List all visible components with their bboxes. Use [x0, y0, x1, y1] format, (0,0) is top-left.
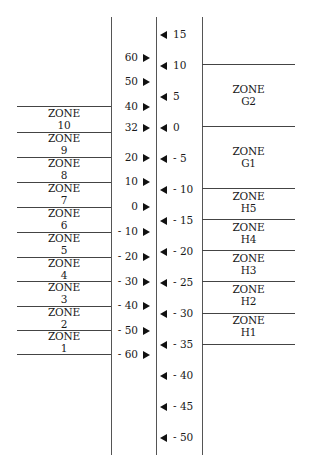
triangle-right-icon: [143, 278, 150, 286]
triangle-left-icon: [160, 124, 167, 132]
triangle-left-icon: [160, 155, 167, 163]
triangle-right-icon: [143, 203, 150, 211]
zone-h4: ZONEH4: [202, 221, 295, 245]
right-tick: - 20: [160, 245, 193, 257]
triangle-left-icon: [160, 248, 167, 256]
triangle-right-icon: [143, 351, 150, 359]
right-tick: - 35: [160, 338, 193, 350]
triangle-right-icon: [143, 124, 150, 132]
triangle-left-icon: [160, 403, 167, 411]
triangle-right-icon: [143, 103, 150, 111]
left-tick: - 10: [104, 225, 150, 237]
right-tick: - 10: [160, 183, 193, 195]
triangle-right-icon: [143, 178, 150, 186]
zone-divider: [202, 250, 295, 251]
zone-4: ZONE4: [17, 257, 111, 281]
triangle-left-icon: [160, 93, 167, 101]
triangle-right-icon: [143, 54, 150, 62]
triangle-left-icon: [160, 186, 167, 194]
right-tick: - 40: [160, 369, 193, 381]
triangle-left-icon: [160, 434, 167, 442]
zone-g2: ZONEG2: [202, 83, 295, 107]
left-tick: 10: [104, 175, 150, 187]
zone-5: ZONE5: [17, 232, 111, 256]
triangle-right-icon: [143, 154, 150, 162]
zone-3: ZONE3: [17, 281, 111, 305]
left-tick: 40: [104, 100, 150, 112]
triangle-left-icon: [160, 31, 167, 39]
triangle-left-icon: [160, 279, 167, 287]
zone-divider: [202, 126, 295, 127]
left-tick: 20: [104, 151, 150, 163]
triangle-right-icon: [143, 253, 150, 261]
zone-10: ZONE10: [17, 107, 111, 131]
right-tick: 15: [160, 28, 186, 40]
triangle-left-icon: [160, 62, 167, 70]
triangle-right-icon: [143, 302, 150, 310]
zone-divider: [202, 344, 295, 345]
left-tick: - 30: [104, 275, 150, 287]
zone-divider: [202, 219, 295, 220]
zone-6: ZONE6: [17, 207, 111, 231]
left-tick: - 60: [104, 348, 150, 360]
zone-h1: ZONEH1: [202, 314, 295, 338]
center-scale-line: [156, 17, 157, 455]
zone-2: ZONE2: [17, 306, 111, 330]
right-tick: - 50: [160, 431, 193, 443]
left-tick: 0: [104, 200, 150, 212]
zone-divider: [202, 188, 295, 189]
zone-divider: [17, 354, 111, 355]
zone-divider: [202, 64, 295, 65]
right-tick: - 30: [160, 307, 193, 319]
right-tick: - 5: [160, 152, 187, 164]
left-tick: 50: [104, 75, 150, 87]
right-tick: - 45: [160, 400, 193, 412]
zone-8: ZONE8: [17, 157, 111, 181]
right-tick: - 25: [160, 276, 193, 288]
triangle-right-icon: [143, 327, 150, 335]
zone-7: ZONE7: [17, 182, 111, 206]
left-tick: 32: [104, 121, 150, 133]
zone-1: ZONE1: [17, 330, 111, 354]
triangle-right-icon: [143, 78, 150, 86]
right-tick: 10: [160, 59, 186, 71]
triangle-right-icon: [143, 228, 150, 236]
left-tick: - 40: [104, 299, 150, 311]
zone-h2: ZONEH2: [202, 283, 295, 307]
zone-h5: ZONEH5: [202, 190, 295, 214]
triangle-left-icon: [160, 372, 167, 380]
right-tick: 0: [160, 121, 180, 133]
right-tick: 5: [160, 90, 180, 102]
triangle-left-icon: [160, 341, 167, 349]
left-tick: 60: [104, 51, 150, 63]
left-tick: - 50: [104, 324, 150, 336]
right-tick: - 15: [160, 214, 193, 226]
zone-h3: ZONEH3: [202, 252, 295, 276]
triangle-left-icon: [160, 217, 167, 225]
triangle-left-icon: [160, 310, 167, 318]
zone-9: ZONE9: [17, 132, 111, 156]
zone-divider: [202, 281, 295, 282]
zone-g1: ZONEG1: [202, 145, 295, 169]
left-tick: - 20: [104, 250, 150, 262]
